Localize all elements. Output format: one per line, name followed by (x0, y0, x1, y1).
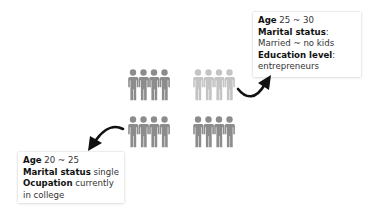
marital-status-line: Marital status: (258, 27, 356, 39)
age-line: Age 25 ~ 30 (258, 15, 356, 27)
education-level-line: Education level: (258, 50, 356, 62)
people-group-bottom-right-icon (193, 115, 237, 149)
people-group-top-right-icon (193, 68, 237, 102)
people-group-bottom-left-icon (128, 115, 172, 149)
occupation-line: Ocupation currently (23, 178, 119, 190)
persona-card-student: Age 20 ~ 25 Marital status single Ocupat… (18, 152, 124, 203)
curved-arrow-down-left-icon (85, 124, 127, 158)
education-level-value: entrepreneurs (258, 61, 356, 73)
persona-card-young-professional: Age 25 ~ 30 Marital status: Married ~ no… (253, 12, 361, 77)
marital-status-value: Married ~ no kids (258, 38, 356, 50)
occupation-value: in college (23, 190, 119, 202)
marital-status-line: Marital status single (23, 167, 119, 179)
people-group-top-left-icon (128, 68, 172, 102)
curved-arrow-up-right-icon (236, 72, 276, 108)
